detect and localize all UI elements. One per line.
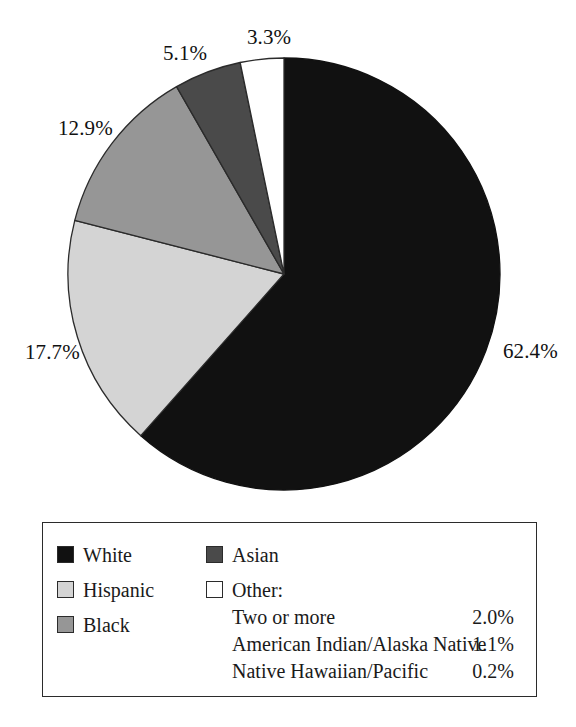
pie-label-asian: 5.1% [163,43,207,64]
legend-subitem-two-or-more: Two or more 2.0% [206,607,526,634]
legend-subvalue-american-indian-alaska-native: 1.1% [472,634,514,654]
legend-label-white: White [83,545,132,565]
legend-column-right: Asian Other: Two or more 2.0% American I… [206,537,526,688]
legend-item-black[interactable]: Black [57,607,207,642]
pie-label-hispanic: 17.7% [25,342,80,363]
legend-item-hispanic[interactable]: Hispanic [57,572,207,607]
pie-slice-group [68,58,500,490]
legend-item-other[interactable]: Other: [206,572,526,607]
pie-label-white: 62.4% [503,341,558,362]
legend-label-asian: Asian [232,545,279,565]
legend-item-asian[interactable]: Asian [206,537,526,572]
pie-chart-svg [0,0,576,510]
legend-column-left: White Hispanic Black [57,537,207,642]
legend-subitem-american-indian-alaska-native: American Indian/Alaska Native 1.1% [206,634,526,661]
legend-label-black: Black [83,615,130,635]
legend-subvalue-native-hawaiian-pacific: 0.2% [472,661,514,681]
legend-subvalue-two-or-more: 2.0% [472,607,514,627]
legend-subitem-native-hawaiian-pacific: Native Hawaiian/Pacific 0.2% [206,661,526,688]
pie-label-other: 3.3% [247,27,291,48]
pie-label-black: 12.9% [58,118,113,139]
pie-chart-figure: 62.4% 17.7% 12.9% 5.1% 3.3% White Hispan… [0,0,576,727]
legend-swatch-other-icon [206,581,223,598]
legend-label-hispanic: Hispanic [83,580,154,600]
legend-swatch-black-icon [57,616,74,633]
legend-swatch-asian-icon [206,546,223,563]
legend-sublabel-two-or-more: Two or more [232,607,335,627]
legend-sublabel-american-indian-alaska-native: American Indian/Alaska Native [232,634,486,654]
legend-item-white[interactable]: White [57,537,207,572]
legend-swatch-white-icon [57,546,74,563]
legend-swatch-hispanic-icon [57,581,74,598]
pie-chart-plot-area: 62.4% 17.7% 12.9% 5.1% 3.3% [0,0,576,510]
legend-sublabel-native-hawaiian-pacific: Native Hawaiian/Pacific [232,661,428,681]
legend-label-other: Other: [232,580,283,600]
legend: White Hispanic Black Asian Other: Two [42,522,537,697]
